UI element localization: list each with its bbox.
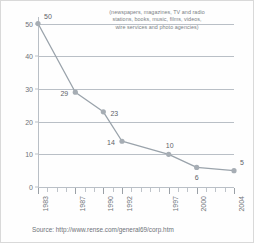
x-axis-label: 1997 bbox=[172, 196, 179, 212]
y-tick-label: 30 bbox=[25, 85, 33, 92]
data-point-marker bbox=[119, 139, 124, 144]
x-tick-major bbox=[234, 188, 235, 194]
x-tick-minor bbox=[225, 188, 226, 192]
x-tick-minor bbox=[150, 188, 151, 192]
chart-figure: (newspapers, magazines, TV and radio sta… bbox=[0, 0, 254, 243]
data-point-label: 5 bbox=[240, 158, 244, 165]
data-point-label: 50 bbox=[44, 12, 52, 19]
series-markers bbox=[35, 21, 236, 173]
x-tick-minor bbox=[113, 188, 114, 192]
data-point-marker bbox=[231, 168, 236, 173]
y-tick-label: 10 bbox=[25, 151, 33, 158]
x-tick-minor bbox=[178, 188, 179, 192]
data-point-label: 29 bbox=[60, 90, 68, 97]
source-caption: Source: http://www.rense.com/general69/c… bbox=[32, 226, 174, 233]
y-tick-label: 0 bbox=[29, 184, 33, 191]
y-tick-label: 20 bbox=[25, 118, 33, 125]
data-point-marker bbox=[166, 152, 171, 157]
x-tick-major bbox=[169, 188, 170, 194]
plot-area: 01020304050 1983198719901992199720002004… bbox=[38, 17, 234, 187]
x-axis-label: 1983 bbox=[42, 196, 49, 212]
x-tick-minor bbox=[159, 188, 160, 192]
x-tick-minor bbox=[187, 188, 188, 192]
x-tick-major bbox=[38, 188, 39, 194]
series-line bbox=[38, 17, 234, 187]
data-point-marker bbox=[73, 90, 78, 95]
x-axis-label: 1990 bbox=[107, 196, 114, 212]
x-tick-minor bbox=[141, 188, 142, 192]
data-point-label: 23 bbox=[110, 109, 118, 116]
data-point-label: 14 bbox=[107, 139, 115, 146]
y-tick-label: 50 bbox=[25, 20, 33, 27]
data-point-marker bbox=[194, 165, 199, 170]
x-axis-label: 1987 bbox=[79, 196, 86, 212]
x-axis-label: 1992 bbox=[126, 196, 133, 212]
x-tick-minor bbox=[47, 188, 48, 192]
x-tick-minor bbox=[206, 188, 207, 192]
x-tick-minor bbox=[66, 188, 67, 192]
data-point-label: 10 bbox=[166, 142, 174, 149]
data-point-label: 6 bbox=[195, 174, 199, 181]
x-tick-major bbox=[103, 188, 104, 194]
annotation-line-1: (newspapers, magazines, TV and radio bbox=[87, 9, 227, 16]
x-tick-major bbox=[197, 188, 198, 194]
x-tick-minor bbox=[57, 188, 58, 192]
x-axis-label: 2000 bbox=[200, 196, 207, 212]
data-point-marker bbox=[101, 109, 106, 114]
y-tick-label: 40 bbox=[25, 53, 33, 60]
x-axis-line bbox=[38, 187, 234, 188]
x-tick-minor bbox=[94, 188, 95, 192]
x-tick-major bbox=[75, 188, 76, 194]
x-tick-minor bbox=[85, 188, 86, 192]
data-point-marker bbox=[35, 21, 40, 26]
x-axis-label: 2004 bbox=[238, 196, 245, 212]
x-tick-minor bbox=[215, 188, 216, 192]
x-tick-minor bbox=[131, 188, 132, 192]
x-tick-major bbox=[122, 188, 123, 194]
